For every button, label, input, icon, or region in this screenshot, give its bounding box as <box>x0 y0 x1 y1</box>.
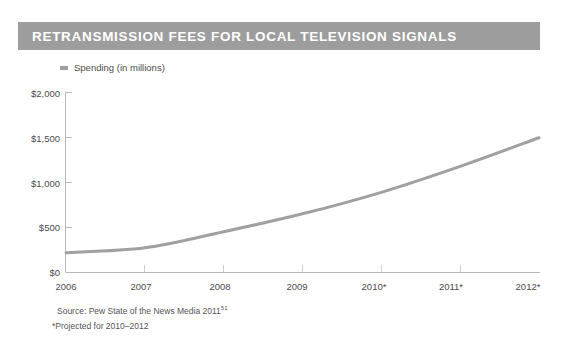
y-axis-ticks <box>66 93 73 228</box>
data-series-line <box>66 138 539 253</box>
plot-svg <box>0 0 566 355</box>
x-axis-ticks <box>145 265 461 272</box>
projection-note: *Projected for 2010–2012 <box>52 321 148 331</box>
source-note: Source: Pew State of the News Media 2011… <box>57 305 227 316</box>
source-note-text: Source: Pew State of the News Media 2011 <box>57 306 221 316</box>
source-note-superscript: 51 <box>221 305 228 311</box>
chart-area: $2,000 $1,500 $1,000 $500 $0 2006 2007 2… <box>0 0 566 355</box>
